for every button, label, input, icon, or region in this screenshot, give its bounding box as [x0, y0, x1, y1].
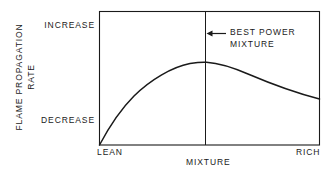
x-tick-label-lean: LEAN: [97, 147, 123, 158]
x-tick-label-rich: RICH: [296, 147, 320, 158]
annotation-line1: BEST POWER: [230, 26, 296, 38]
annotation-line2: MIXTURE: [230, 38, 296, 50]
flame-propagation-chart: FLAME PROPAGATION RATE INCREASE DECREASE…: [0, 0, 333, 178]
y-axis-title: FLAME PROPAGATION RATE: [8, 16, 42, 138]
y-axis-title-line1: FLAME PROPAGATION: [14, 23, 24, 130]
y-tick-label-increase: INCREASE: [44, 20, 95, 31]
arrow-left-icon: [207, 31, 227, 37]
y-axis-title-line2: RATE: [26, 64, 36, 90]
y-tick-label-decrease: DECREASE: [41, 115, 95, 126]
x-axis-title: MIXTURE: [186, 157, 231, 168]
flame-propagation-curve: [100, 62, 320, 145]
best-power-mixture-annotation: BEST POWER MIXTURE: [230, 26, 296, 51]
